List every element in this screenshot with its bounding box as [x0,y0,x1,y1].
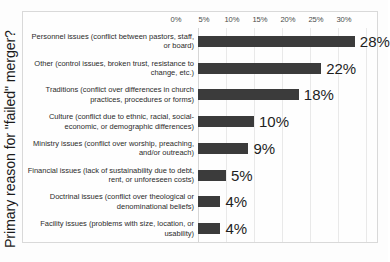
bar-value-label: 5% [231,168,253,183]
category-label: Financial issues (lack of sustainability… [24,166,194,185]
bar-row: Financial issues (lack of sustainability… [22,162,378,189]
y-axis-title-container: Primary reason for "failed" merger? [0,0,22,250]
bar-row: Ministry issues (conflict over worship, … [22,135,378,162]
bar-track: 22% [198,55,378,82]
category-label: Personnel issues (conflict between pasto… [24,32,194,51]
bar-value-label: 4% [225,221,247,236]
bar[interactable] [198,116,254,127]
bar[interactable] [198,143,248,154]
category-label: Ministry issues (conflict over worship, … [24,139,194,158]
x-axis-tick-10: 10% [224,15,239,24]
bar-track: 9% [198,135,378,162]
bar-value-label: 28% [360,34,390,49]
x-axis-tick-30: 30% [336,15,351,24]
category-label: Other (control issues, broken trust, res… [24,59,194,78]
bar-value-label: 9% [253,141,275,156]
bar-row: Doctrinal issues (conflict over theologi… [22,189,378,216]
x-axis-tick-labels: 0%5%10%15%20%25%30% [176,15,376,29]
category-label: Traditions (conflict over differences in… [24,85,194,104]
bar-row: Other (control issues, broken trust, res… [22,55,378,82]
bar-track: 10% [198,108,378,135]
bar-value-label: 18% [304,87,334,102]
bar-track: 28% [198,28,378,55]
bar-row: Culture (conflict due to ethnic, racial,… [22,108,378,135]
x-axis-tick-15: 15% [252,15,267,24]
category-label: Doctrinal issues (conflict over theologi… [24,192,194,211]
bar[interactable] [198,196,220,207]
bar-value-label: 4% [225,194,247,209]
bar-row: Facility issues (problems with size, loc… [22,215,378,242]
y-axis-title: Primary reason for "failed" merger? [2,30,18,248]
category-label: Facility issues (problems with size, loc… [24,219,194,238]
bar-value-label: 10% [259,114,289,129]
bar-rows: Personnel issues (conflict between pasto… [22,28,378,242]
bar-track: 5% [198,162,378,189]
bar-track: 4% [198,215,378,242]
bar[interactable] [198,89,299,100]
bar-track: 18% [198,82,378,109]
bar[interactable] [198,223,220,234]
x-axis-tick-25: 25% [308,15,323,24]
bar-row: Personnel issues (conflict between pasto… [22,28,378,55]
bar-row: Traditions (conflict over differences in… [22,82,378,109]
bar-track: 4% [198,189,378,216]
category-label: Culture (conflict due to ethnic, racial,… [24,112,194,131]
bar-value-label: 22% [326,61,356,76]
x-axis-tick-20: 20% [280,15,295,24]
bar[interactable] [198,63,321,74]
bar[interactable] [198,170,226,181]
x-axis-tick-0: 0% [171,15,182,24]
bar[interactable] [198,36,355,47]
x-axis-tick-5: 5% [199,15,210,24]
